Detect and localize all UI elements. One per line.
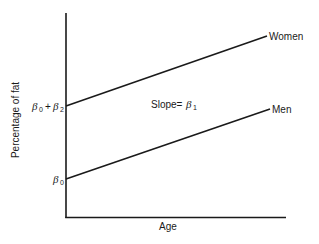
svg-text:Slope=: Slope= [151, 99, 183, 110]
slope-annotation: Slope= β 1 [151, 98, 197, 111]
tick-label-beta0: β 0 [52, 173, 64, 186]
svg-text:0: 0 [60, 179, 64, 186]
women-label: Women [269, 31, 303, 42]
svg-text:β: β [31, 100, 38, 112]
tick-label-beta0-plus-beta2: β 0 + β 2 [31, 100, 64, 113]
women-line [66, 36, 267, 106]
svg-text:0: 0 [39, 106, 43, 113]
men-label: Men [272, 104, 291, 115]
svg-text:1: 1 [193, 104, 197, 111]
men-line [66, 109, 270, 179]
svg-text:β: β [52, 100, 59, 112]
svg-text:+: + [45, 101, 51, 112]
regression-diagram: Women Men β 0 + β 2 β 0 Slope= β 1 Age P… [0, 0, 319, 244]
x-axis-label: Age [159, 221, 177, 232]
svg-text:β: β [52, 173, 59, 185]
svg-text:2: 2 [60, 106, 64, 113]
svg-text:β: β [185, 98, 192, 110]
y-axis-label: Percentage of fat [10, 82, 21, 158]
